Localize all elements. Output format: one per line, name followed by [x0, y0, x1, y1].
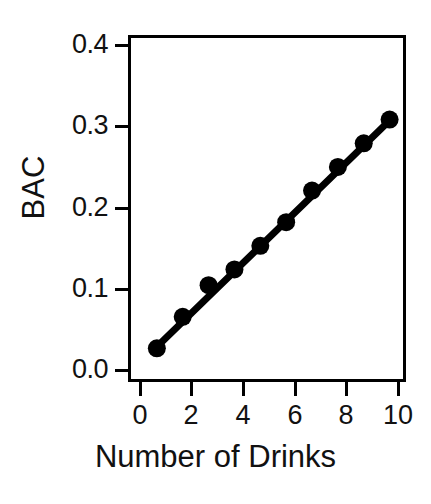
y-tick-mark — [115, 44, 128, 47]
x-tick-label: 2 — [183, 402, 198, 429]
y-tick-label: 0.3 — [72, 112, 108, 139]
x-tick-mark — [242, 382, 245, 396]
y-tick-label: 0.4 — [72, 31, 108, 58]
data-point — [329, 158, 347, 176]
x-tick-label: 10 — [383, 402, 413, 429]
data-point — [174, 308, 192, 326]
y-tick-mark — [115, 369, 128, 372]
data-point — [355, 134, 373, 152]
y-tick-mark — [115, 207, 128, 210]
x-tick-label: 8 — [338, 402, 353, 429]
data-point — [277, 213, 295, 231]
x-tick-mark — [397, 382, 400, 396]
x-tick-mark — [294, 382, 297, 396]
x-tick-mark — [345, 382, 348, 396]
x-tick-mark — [190, 382, 193, 396]
y-tick-mark — [115, 288, 128, 291]
y-axis-title: BAC — [18, 122, 49, 254]
data-point — [200, 276, 218, 294]
x-tick-mark — [139, 382, 142, 396]
trend-line — [157, 120, 390, 346]
plot-area — [128, 35, 406, 382]
data-point — [148, 339, 166, 357]
data-point — [225, 260, 243, 278]
x-tick-label: 0 — [132, 402, 147, 429]
data-point — [303, 182, 321, 200]
y-tick-mark — [115, 125, 128, 128]
chart-figure: BAC 0.4 0.3 0.2 0.1 0.0 — [0, 0, 431, 504]
x-tick-label: 4 — [235, 402, 250, 429]
x-axis-title: Number of Drinks — [0, 440, 431, 474]
data-point — [251, 237, 269, 255]
y-tick-label: 0.0 — [72, 356, 108, 383]
x-axis: 0 2 4 6 8 10 Number of Drinks — [0, 382, 431, 504]
y-tick-label: 0.2 — [72, 194, 108, 221]
plot-svg — [131, 38, 409, 385]
data-point — [381, 111, 399, 129]
x-tick-label: 6 — [287, 402, 302, 429]
y-tick-label: 0.1 — [72, 275, 108, 302]
